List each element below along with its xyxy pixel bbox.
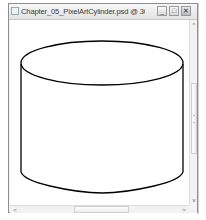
close-button[interactable]: ✕ — [181, 6, 191, 16]
scrollbar-corner — [189, 205, 197, 213]
document-window: Chapter_05_PixelArtCylinder.psd @ 300% (… — [8, 3, 198, 213]
maximize-button[interactable]: □ — [169, 6, 179, 16]
maximize-icon: □ — [172, 7, 176, 14]
title-bar[interactable]: Chapter_05_PixelArtCylinder.psd @ 300% (… — [9, 4, 197, 20]
grip-icon — [193, 115, 195, 123]
cylinder-top-ellipse — [21, 41, 183, 85]
vertical-scroll-thumb[interactable] — [191, 83, 197, 154]
scroll-right-icon[interactable]: > — [180, 206, 188, 214]
vertical-scrollbar[interactable]: ^ v — [189, 20, 197, 205]
horizontal-scrollbar[interactable]: < > — [10, 205, 189, 213]
photoshop-document-icon — [11, 7, 19, 15]
close-icon: ✕ — [183, 7, 189, 14]
scroll-down-icon[interactable]: v — [190, 196, 198, 204]
cylinder-drawing — [10, 20, 189, 205]
window-title: Chapter_05_PixelArtCylinder.psd @ 300% (… — [21, 6, 145, 17]
scroll-left-icon[interactable]: < — [11, 206, 19, 214]
window-shadow — [198, 3, 199, 214]
minimize-button[interactable]: _ — [157, 6, 167, 16]
cylinder-bottom-curve — [21, 172, 183, 193]
document-canvas[interactable] — [10, 20, 189, 205]
minimize-icon: _ — [160, 7, 164, 14]
scroll-up-icon[interactable]: ^ — [190, 21, 198, 29]
horizontal-scroll-thumb[interactable] — [74, 206, 129, 213]
